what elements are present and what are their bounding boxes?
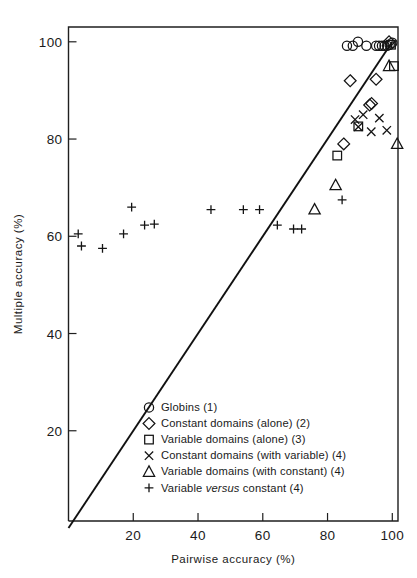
x-tick-label: 60 — [255, 528, 271, 543]
plus-marker — [338, 195, 347, 204]
data-series — [351, 111, 391, 136]
diamond-marker — [366, 98, 378, 110]
data-series — [338, 36, 395, 150]
x-axis-title: Pairwise accuracy (%) — [171, 553, 295, 565]
diamond-marker — [370, 73, 382, 85]
x-tick-label: 40 — [190, 528, 206, 543]
cross-marker — [145, 452, 153, 460]
plus-marker — [150, 220, 159, 229]
square-marker — [145, 435, 154, 444]
cross-marker — [383, 126, 391, 134]
legend-item: Globins (1) — [144, 401, 217, 413]
y-tick-label: 60 — [47, 229, 63, 244]
axis-titles: Pairwise accuracy (%)Multiple accuracy (… — [12, 214, 295, 565]
diamond-marker — [143, 418, 155, 430]
plus-marker — [145, 483, 154, 492]
y-axis-title: Multiple accuracy (%) — [12, 214, 24, 334]
plot-canvas: 2040608010020406080100 Globins (1)Consta… — [0, 0, 417, 578]
legend-item: Variable domains (alone) (3) — [145, 433, 306, 445]
x-tick-label: 20 — [125, 528, 141, 543]
legend-item-label: Variable versus constant (4) — [161, 482, 304, 494]
data-series — [342, 37, 397, 50]
diamond-marker — [364, 99, 376, 111]
plus-marker — [119, 229, 128, 238]
legend-item-label: Constant domains (with variable) (4) — [161, 449, 346, 461]
plus-marker — [127, 203, 136, 212]
plus-marker — [273, 221, 282, 230]
y-tick-label: 80 — [47, 132, 63, 147]
plus-marker — [140, 221, 149, 230]
plus-marker — [98, 244, 107, 253]
triangle-marker — [330, 179, 341, 189]
cross-marker — [354, 123, 362, 131]
legend-item: Constant domains (with variable) (4) — [145, 449, 346, 461]
legend-item: Variable domains (with constant) (4) — [143, 465, 344, 477]
y-tick-label: 40 — [47, 327, 63, 342]
x-tick-label: 80 — [320, 528, 336, 543]
y-tick-label: 20 — [47, 424, 63, 439]
plus-marker — [74, 229, 83, 238]
x-tick-label: 100 — [380, 528, 404, 543]
axis-box — [69, 27, 399, 521]
y-tick-label: 100 — [39, 35, 63, 50]
axis-frame — [69, 27, 399, 521]
data-series — [309, 60, 403, 214]
legend-item-label: Variable domains (alone) (3) — [161, 433, 306, 445]
legend-item-label: Constant domains (alone) (2) — [161, 417, 310, 429]
plus-marker — [255, 205, 264, 214]
diamond-marker — [338, 138, 350, 150]
plus-marker — [239, 205, 248, 214]
legend-item-label: Globins (1) — [161, 401, 217, 413]
diamond-marker — [344, 75, 356, 87]
triangle-marker — [392, 138, 403, 148]
cross-marker — [367, 128, 375, 136]
cross-marker — [359, 111, 367, 119]
triangle-marker — [309, 204, 320, 214]
plus-marker — [297, 225, 306, 234]
legend-item-label: Variable domains (with constant) (4) — [161, 465, 345, 477]
cross-marker — [375, 114, 383, 122]
plot-legend: Globins (1)Constant domains (alone) (2)V… — [143, 401, 346, 494]
data-points — [74, 36, 403, 253]
plus-marker — [207, 205, 216, 214]
triangle-marker — [143, 466, 154, 476]
square-marker — [333, 151, 342, 160]
data-series — [333, 40, 398, 159]
plus-marker — [77, 242, 86, 251]
legend-item: Constant domains (alone) (2) — [143, 417, 310, 429]
circle-marker — [362, 41, 371, 50]
plus-marker — [289, 225, 298, 234]
legend-item: Variable versus constant (4) — [145, 482, 304, 494]
scatter-plot-figure: 2040608010020406080100 Globins (1)Consta… — [0, 0, 417, 578]
data-series — [74, 195, 347, 252]
